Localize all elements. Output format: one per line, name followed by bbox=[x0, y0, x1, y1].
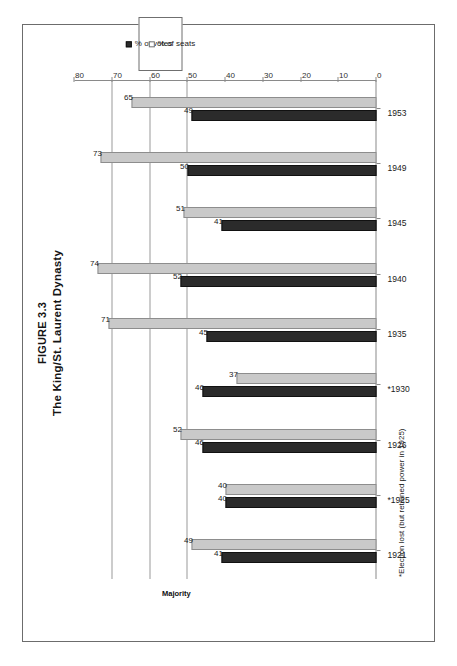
value-tick-label-60: 60 bbox=[150, 71, 159, 80]
bar-seats: 71 bbox=[108, 318, 376, 329]
bar-seats: 49 bbox=[191, 539, 376, 550]
bar-seats: 73 bbox=[100, 152, 376, 163]
bar-group: 5274 bbox=[74, 247, 376, 302]
category-tick bbox=[376, 384, 380, 385]
category-label: *1930 bbox=[387, 384, 409, 394]
bar-value-label: 74 bbox=[89, 259, 98, 268]
bar-value-label: 51 bbox=[176, 204, 185, 213]
page-title: The King/St. Laurent Dynasty bbox=[49, 29, 64, 637]
category-tick bbox=[376, 495, 380, 496]
bar-group: 4637 bbox=[74, 358, 376, 413]
bar-seats: 52 bbox=[180, 429, 376, 440]
bar-votes: 50 bbox=[187, 165, 376, 176]
bar-seats: 74 bbox=[97, 263, 376, 274]
legend-swatch-seats-icon bbox=[148, 41, 154, 47]
bar-value-label: 71 bbox=[101, 315, 110, 324]
bar-groups: 414940404652463745715274415150734965 bbox=[74, 81, 376, 579]
bar-group: 4151 bbox=[74, 192, 376, 247]
category-tick bbox=[376, 274, 380, 275]
value-tick-label-70: 70 bbox=[112, 71, 121, 80]
legend-item: % of seats bbox=[148, 39, 194, 48]
category-tick bbox=[376, 218, 380, 219]
value-tick-label-80: 80 bbox=[75, 71, 84, 80]
rotated-figure-canvas: FIGURE 3.3 The King/St. Laurent Dynasty … bbox=[26, 29, 431, 637]
bar-group: 4652 bbox=[74, 413, 376, 468]
category-tick bbox=[376, 550, 380, 551]
bar-votes: 40 bbox=[225, 497, 376, 508]
category-tick bbox=[376, 329, 380, 330]
bar-seats: 51 bbox=[183, 207, 376, 218]
category-label: 1949 bbox=[387, 163, 406, 173]
chart-legend: % of votes% of seats bbox=[138, 17, 182, 71]
category-tick bbox=[376, 440, 380, 441]
chart-plot-area: 414940404652463745715274415150734965 192… bbox=[74, 81, 376, 579]
category-label: 1940 bbox=[387, 274, 406, 284]
bar-votes: 41 bbox=[221, 552, 376, 563]
value-tick-label-40: 40 bbox=[226, 71, 235, 80]
value-tick-label-50: 50 bbox=[188, 71, 197, 80]
figure-title-block: FIGURE 3.3 The King/St. Laurent Dynasty bbox=[34, 29, 64, 637]
category-tick bbox=[376, 108, 380, 109]
category-tick bbox=[376, 163, 380, 164]
bar-value-label: 52 bbox=[172, 425, 181, 434]
bar-group: 4040 bbox=[74, 468, 376, 523]
bar-seats: 37 bbox=[236, 373, 376, 384]
bar-value-label: 46 bbox=[195, 383, 204, 392]
bar-votes: 45 bbox=[206, 331, 376, 342]
bar-votes: 52 bbox=[180, 276, 376, 287]
value-tick-label-10: 10 bbox=[339, 71, 348, 80]
figure-page-frame: FIGURE 3.3 The King/St. Laurent Dynasty … bbox=[22, 24, 435, 642]
bar-votes: 49 bbox=[191, 110, 376, 121]
majority-annotation: Majority bbox=[162, 589, 191, 598]
category-label: 1953 bbox=[387, 108, 406, 118]
bar-value-label: 73 bbox=[93, 149, 102, 158]
value-tick-label-20: 20 bbox=[301, 71, 310, 80]
bar-group: 5073 bbox=[74, 136, 376, 191]
figure-footnote: *Election lost (but retained power in 19… bbox=[396, 428, 405, 577]
legend-label: % of seats bbox=[157, 39, 194, 48]
figure-number: FIGURE 3.3 bbox=[34, 29, 49, 637]
bar-seats: 40 bbox=[225, 484, 376, 495]
bar-value-label: 65 bbox=[123, 93, 132, 102]
legend-swatch-votes-icon bbox=[125, 41, 131, 47]
bar-value-label: 40 bbox=[218, 481, 227, 490]
bar-votes: 46 bbox=[202, 386, 376, 397]
bar-votes: 46 bbox=[202, 442, 376, 453]
category-label: 1945 bbox=[387, 218, 406, 228]
bar-group: 4149 bbox=[74, 524, 376, 579]
bar-votes: 41 bbox=[221, 220, 376, 231]
plot-inner: 414940404652463745715274415150734965 bbox=[74, 81, 376, 579]
bar-value-label: 49 bbox=[184, 536, 193, 545]
category-label: 1935 bbox=[387, 329, 406, 339]
bar-seats: 65 bbox=[131, 97, 376, 108]
value-tick-label-30: 30 bbox=[263, 71, 272, 80]
value-tick-label-0: 0 bbox=[377, 71, 381, 80]
bar-group: 4965 bbox=[74, 81, 376, 136]
bar-value-label: 37 bbox=[229, 370, 238, 379]
bar-group: 4571 bbox=[74, 302, 376, 357]
